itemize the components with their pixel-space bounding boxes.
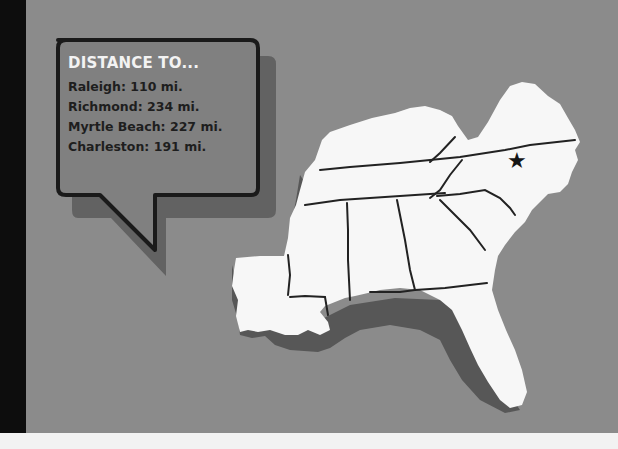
distance-charleston: Charleston: 191 mi. bbox=[68, 139, 258, 154]
bottom-white-strip bbox=[0, 433, 618, 449]
distance-raleigh: Raleigh: 110 mi. bbox=[68, 79, 258, 94]
distance-myrtle-beach: Myrtle Beach: 227 mi. bbox=[68, 119, 258, 134]
distance-callout: DISTANCE TO... Raleigh: 110 mi. Richmond… bbox=[68, 55, 258, 159]
callout-title: DISTANCE TO... bbox=[68, 55, 258, 72]
distance-richmond: Richmond: 234 mi. bbox=[68, 99, 258, 114]
